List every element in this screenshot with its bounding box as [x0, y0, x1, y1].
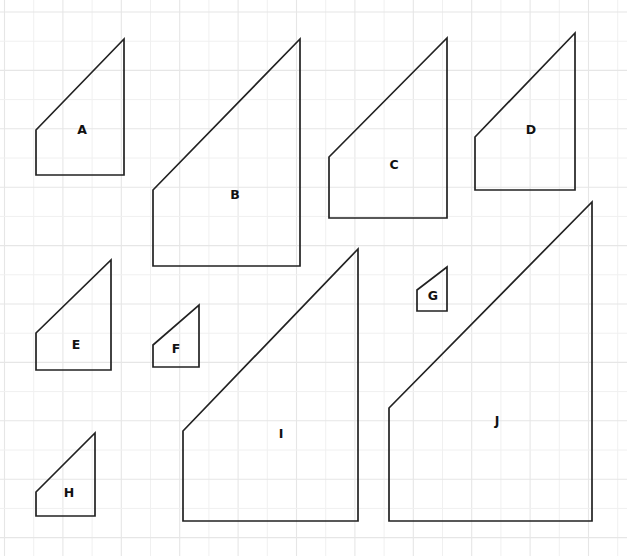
- shape-c[interactable]: C: [329, 38, 447, 218]
- worksheet-canvas: ABCDEFGHIJ: [0, 0, 627, 556]
- shape-label-j: J: [494, 413, 500, 428]
- shape-outline-b[interactable]: [153, 39, 300, 266]
- shape-label-a: A: [77, 122, 87, 137]
- shape-label-f: F: [172, 341, 181, 356]
- shape-outline-f[interactable]: [153, 305, 199, 367]
- shape-d[interactable]: D: [475, 33, 575, 190]
- shape-label-i: I: [279, 426, 284, 441]
- shape-outline-d[interactable]: [475, 33, 575, 190]
- shape-g[interactable]: G: [417, 267, 447, 311]
- shape-label-e: E: [72, 337, 81, 352]
- shapes-layer: ABCDEFGHIJ: [0, 0, 627, 556]
- shape-outline-i[interactable]: [183, 249, 358, 521]
- shape-label-d: D: [526, 122, 536, 137]
- shape-f[interactable]: F: [153, 305, 199, 367]
- shape-outline-j[interactable]: [389, 202, 592, 521]
- shape-outline-e[interactable]: [36, 260, 111, 370]
- shape-h[interactable]: H: [36, 433, 95, 516]
- shape-label-c: C: [389, 157, 398, 172]
- shape-outline-a[interactable]: [36, 39, 124, 175]
- shape-label-b: B: [230, 187, 240, 202]
- shape-outline-h[interactable]: [36, 433, 95, 516]
- shape-label-h: H: [64, 485, 74, 500]
- shape-b[interactable]: B: [153, 39, 300, 266]
- shape-e[interactable]: E: [36, 260, 111, 370]
- shape-label-g: G: [428, 288, 438, 303]
- shape-j[interactable]: J: [389, 202, 592, 521]
- shape-i[interactable]: I: [183, 249, 358, 521]
- shape-outline-c[interactable]: [329, 38, 447, 218]
- shape-a[interactable]: A: [36, 39, 124, 175]
